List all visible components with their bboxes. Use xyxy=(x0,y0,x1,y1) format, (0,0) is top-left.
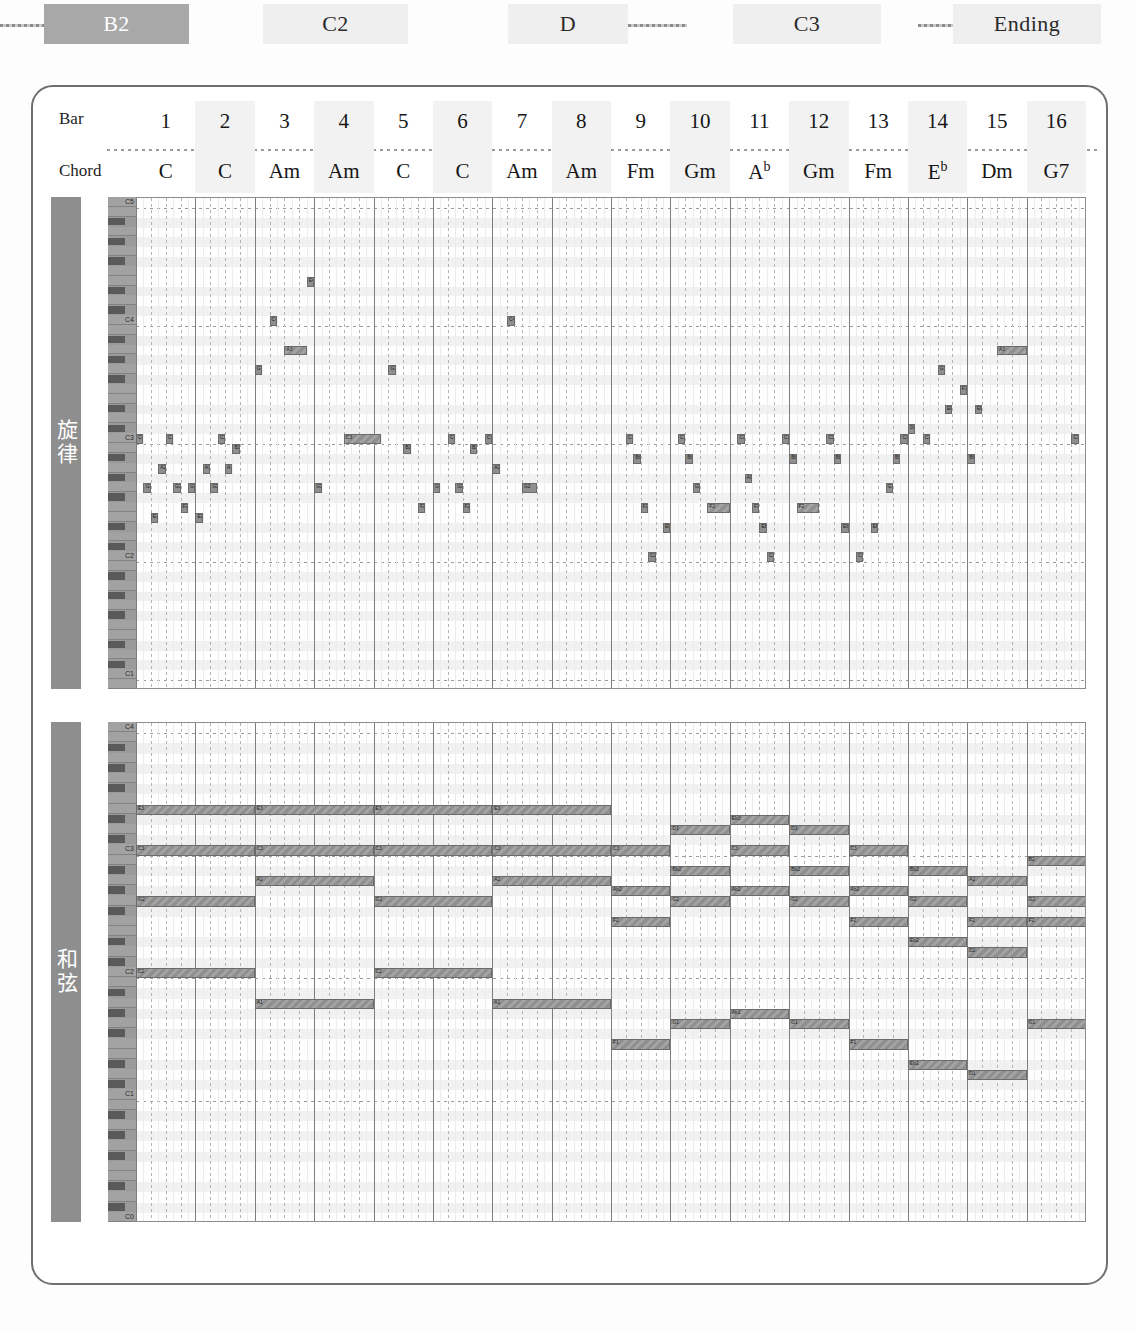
note-block[interactable]: B2 xyxy=(1027,856,1086,866)
note-block[interactable]: C3 xyxy=(218,434,225,444)
white-key[interactable] xyxy=(108,384,136,394)
note-block[interactable]: F2 xyxy=(707,503,729,513)
black-key[interactable] xyxy=(108,886,125,894)
white-key[interactable] xyxy=(108,266,136,276)
black-key[interactable] xyxy=(108,218,125,225)
note-block[interactable]: G2 xyxy=(908,896,967,906)
note-block[interactable]: C2 xyxy=(856,552,863,562)
note-block[interactable]: C3 xyxy=(782,434,789,444)
white-key[interactable] xyxy=(108,946,136,956)
note-grid-melody[interactable]: C3G2E2A2C3G2F2G2E2A2G2C3A2B2G3C4A3E4G2C3… xyxy=(136,197,1086,689)
note-block[interactable]: F2 xyxy=(849,917,908,927)
black-key[interactable] xyxy=(108,238,125,245)
white-key[interactable] xyxy=(108,793,136,803)
black-key[interactable] xyxy=(108,1203,125,1211)
white-key[interactable] xyxy=(108,512,136,522)
note-block[interactable]: G2 xyxy=(314,483,321,493)
white-key[interactable] xyxy=(108,1038,136,1048)
note-block[interactable]: G2 xyxy=(188,483,195,493)
note-block[interactable]: F1 xyxy=(849,1039,908,1049)
note-block[interactable]: C3 xyxy=(255,845,374,855)
white-key[interactable] xyxy=(108,561,136,571)
black-key[interactable] xyxy=(108,1060,125,1068)
note-block[interactable]: C4 xyxy=(270,316,277,326)
white-key[interactable] xyxy=(108,679,136,689)
note-block[interactable]: B2 xyxy=(232,444,239,454)
note-block[interactable]: C2 xyxy=(374,968,493,978)
white-key[interactable] xyxy=(108,482,136,492)
black-key[interactable] xyxy=(108,764,125,772)
note-block[interactable]: C3 xyxy=(737,434,744,444)
note-block[interactable]: C3 xyxy=(344,434,381,444)
black-key[interactable] xyxy=(108,375,125,382)
black-key[interactable] xyxy=(108,989,125,997)
note-block[interactable]: F2 xyxy=(752,503,759,513)
piano-keyboard-chord[interactable]: C0C1C2C3C4 xyxy=(108,722,137,1222)
white-key[interactable] xyxy=(108,926,136,936)
note-block[interactable]: F1 xyxy=(611,1039,670,1049)
white-key[interactable] xyxy=(108,895,136,905)
black-key[interactable] xyxy=(108,866,125,874)
note-block[interactable]: C4 xyxy=(507,316,514,326)
black-key[interactable] xyxy=(108,474,125,481)
note-block[interactable]: D1 xyxy=(967,1070,1026,1080)
white-key[interactable] xyxy=(108,824,136,834)
note-block[interactable]: A1 xyxy=(255,999,374,1009)
note-block[interactable]: E3 xyxy=(136,805,255,815)
note-block[interactable]: A2 xyxy=(492,876,611,886)
section-chip-c2[interactable]: C2 xyxy=(263,4,408,44)
note-block[interactable]: C3 xyxy=(826,434,833,444)
white-key[interactable] xyxy=(108,998,136,1008)
note-block[interactable]: C3 xyxy=(611,845,670,855)
note-block[interactable]: E3 xyxy=(492,805,611,815)
note-grid-chord[interactable]: E3C3G2C2E3C3A2A1E3C3G2C2E3C3A2A1C3Ab2F2F… xyxy=(136,722,1086,1222)
white-key[interactable] xyxy=(108,463,136,473)
note-block[interactable]: C3 xyxy=(1071,434,1078,444)
white-key[interactable] xyxy=(108,581,136,591)
note-block[interactable]: Eb2 xyxy=(841,523,848,533)
note-block[interactable]: G2 xyxy=(210,483,217,493)
note-block[interactable]: C2 xyxy=(648,552,655,562)
black-key[interactable] xyxy=(108,784,125,792)
white-key[interactable] xyxy=(108,394,136,404)
note-block[interactable]: G2 xyxy=(789,896,848,906)
note-block[interactable]: G2 xyxy=(173,483,180,493)
white-key[interactable] xyxy=(108,502,136,512)
note-block[interactable]: Bb2 xyxy=(685,454,692,464)
white-key[interactable] xyxy=(108,227,136,237)
note-block[interactable]: A2 xyxy=(203,464,210,474)
note-block[interactable]: Bb2 xyxy=(893,454,900,464)
note-block[interactable]: Bb2 xyxy=(633,454,640,464)
white-key[interactable] xyxy=(108,276,136,286)
note-block[interactable]: D3 xyxy=(670,825,729,835)
black-key[interactable] xyxy=(108,1152,125,1160)
black-key[interactable] xyxy=(108,744,125,752)
piano-keyboard-melody[interactable]: C1C2C3C4C5 xyxy=(108,197,137,689)
black-key[interactable] xyxy=(108,1009,125,1017)
black-key[interactable] xyxy=(108,938,125,946)
black-key[interactable] xyxy=(108,405,125,412)
note-block[interactable]: C3 xyxy=(485,434,492,444)
note-block[interactable]: F3 xyxy=(960,385,967,395)
black-key[interactable] xyxy=(108,543,125,550)
white-key[interactable] xyxy=(108,650,136,660)
white-key[interactable] xyxy=(108,732,136,742)
note-block[interactable]: G2 xyxy=(1027,896,1086,906)
white-key[interactable] xyxy=(108,532,136,542)
note-block[interactable]: C3 xyxy=(136,434,143,444)
section-chip-d[interactable]: D xyxy=(508,4,628,44)
black-key[interactable] xyxy=(108,257,125,264)
section-chip-c3[interactable]: C3 xyxy=(733,4,881,44)
note-block[interactable]: G1 xyxy=(1027,1019,1086,1029)
note-block[interactable]: B2 xyxy=(470,444,477,454)
note-block[interactable]: A2 xyxy=(967,876,1026,886)
black-key[interactable] xyxy=(108,336,125,343)
white-key[interactable] xyxy=(108,1069,136,1079)
black-key[interactable] xyxy=(108,641,125,648)
white-key[interactable] xyxy=(108,443,136,453)
white-key[interactable] xyxy=(108,345,136,355)
note-block[interactable]: E3 xyxy=(374,805,493,815)
black-key[interactable] xyxy=(108,287,125,294)
note-block[interactable]: A2 xyxy=(492,464,499,474)
note-block[interactable]: A3 xyxy=(284,346,306,356)
